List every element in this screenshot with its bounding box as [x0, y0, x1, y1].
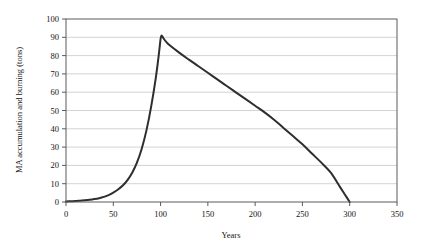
svg-text:70: 70	[51, 69, 60, 79]
svg-text:20: 20	[51, 160, 60, 170]
svg-text:40: 40	[51, 124, 60, 134]
svg-text:90: 90	[51, 32, 60, 42]
svg-text:50: 50	[109, 209, 118, 219]
svg-text:50: 50	[51, 106, 60, 116]
line-chart: 0102030405060708090100 05010015020025030…	[0, 0, 423, 246]
svg-text:30: 30	[51, 142, 60, 152]
svg-text:100: 100	[46, 14, 59, 24]
svg-text:60: 60	[51, 87, 60, 97]
svg-text:10: 10	[51, 179, 60, 189]
svg-text:0: 0	[55, 197, 59, 207]
x-axis-tick-labels: 050100150200250300350	[64, 209, 404, 219]
svg-text:0: 0	[64, 209, 68, 219]
y-axis-tick-labels: 0102030405060708090100	[46, 14, 59, 207]
y-axis-tick-marks	[62, 19, 66, 202]
svg-text:80: 80	[51, 51, 60, 61]
svg-text:350: 350	[391, 209, 404, 219]
chart-figure: 0102030405060708090100 05010015020025030…	[0, 0, 423, 246]
svg-text:300: 300	[343, 209, 356, 219]
x-axis-tick-marks	[66, 202, 397, 206]
svg-text:250: 250	[296, 209, 309, 219]
svg-text:150: 150	[201, 209, 214, 219]
svg-text:100: 100	[154, 209, 167, 219]
x-axis-title: Years	[222, 230, 241, 240]
svg-text:200: 200	[249, 209, 262, 219]
y-axis-title: MA accumulation and burning (tons)	[14, 47, 24, 173]
